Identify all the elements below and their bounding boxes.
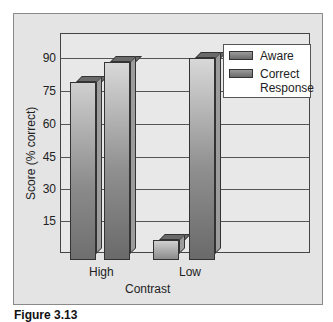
ytick-75: 75	[30, 84, 56, 98]
legend-label-aware: Aware	[260, 49, 294, 63]
bar-side	[130, 56, 136, 254]
legend-swatch-aware	[229, 51, 253, 60]
x-axis-label: Contrast	[125, 282, 170, 296]
figure-caption: Figure 3.13	[14, 308, 77, 322]
bar-low-correct	[189, 58, 221, 260]
x-category-high: High	[89, 265, 114, 279]
bar-front	[189, 58, 215, 260]
y-axis-label: Score (% correct)	[24, 107, 38, 200]
legend: Aware Correct Response	[223, 44, 311, 98]
bar-front	[70, 82, 96, 260]
bar-low-aware	[153, 240, 185, 260]
bar-high-correct	[104, 62, 136, 260]
legend-label-correct-line2: Response	[260, 81, 314, 95]
bar-front	[104, 62, 130, 260]
bar-side	[96, 76, 102, 254]
bar-high-aware	[70, 82, 102, 260]
bar-front	[153, 240, 179, 260]
legend-label-correct-line1: Correct	[260, 67, 299, 81]
x-category-low: Low	[179, 265, 201, 279]
legend-swatch-correct	[229, 69, 253, 78]
ytick-15: 15	[30, 214, 56, 228]
bar-side	[215, 52, 221, 254]
ytick-90: 90	[30, 51, 56, 65]
